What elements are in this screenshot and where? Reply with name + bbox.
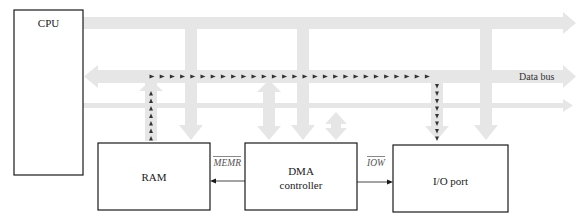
memr-signal: MEMR bbox=[210, 157, 245, 184]
memr-label: MEMR bbox=[213, 158, 242, 168]
address-bus bbox=[83, 12, 576, 34]
dma-controller-block: DMA controller bbox=[245, 143, 357, 210]
address-bus-drop-io bbox=[474, 29, 498, 140]
io-port-block: I/O port bbox=[393, 145, 508, 212]
cpu-label: CPU bbox=[38, 17, 59, 29]
data-bus-label: Data bus bbox=[519, 71, 554, 82]
dma-label-line1: DMA bbox=[288, 165, 314, 177]
iow-label: IOW bbox=[366, 158, 386, 168]
dma-control-bus-arrow bbox=[325, 112, 347, 140]
cpu-block: CPU bbox=[14, 10, 83, 175]
data-bus bbox=[84, 65, 576, 88]
iow-arrowhead-icon bbox=[387, 180, 393, 185]
io-port-label: I/O port bbox=[433, 175, 468, 187]
memr-arrowhead-icon bbox=[210, 179, 216, 184]
flow-marker-down bbox=[435, 137, 439, 142]
address-bus-drop-dma bbox=[291, 29, 315, 140]
ram-block: RAM bbox=[98, 143, 210, 210]
ram-label: RAM bbox=[141, 171, 166, 183]
dma-diagram: CPU RAM DMA controller I/O port MEMR IOW… bbox=[0, 0, 578, 224]
dma-label-line2: controller bbox=[280, 179, 323, 191]
iow-signal: IOW bbox=[357, 157, 393, 185]
address-bus-drop-ram bbox=[179, 29, 203, 140]
dma-data-bus-arrow bbox=[257, 80, 281, 140]
